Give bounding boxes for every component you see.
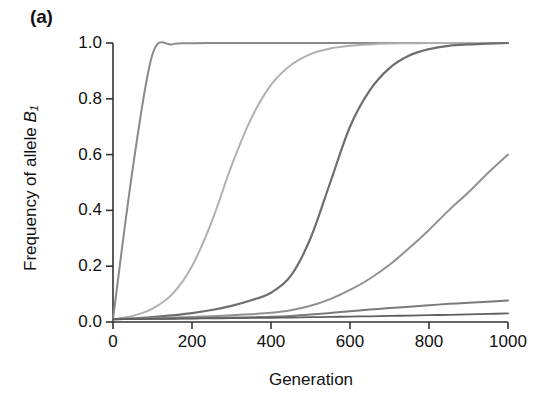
- x-axis-ticks: [113, 322, 508, 329]
- axes: [106, 43, 508, 329]
- y-axis-ticks: [106, 43, 113, 322]
- data-series-group: [113, 42, 508, 319]
- figure-panel-a: (a) Frequency of allele B1 Generation 1.…: [0, 0, 549, 407]
- data-line-curve-2: [113, 43, 508, 319]
- plot-area: [0, 0, 549, 407]
- data-line-curve-3: [113, 43, 508, 319]
- data-line-curve-1: [113, 42, 508, 319]
